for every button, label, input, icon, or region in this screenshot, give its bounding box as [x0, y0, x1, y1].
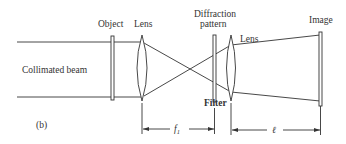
f1-label: f1	[174, 124, 180, 135]
ray-diverge-bottom	[231, 92, 320, 101]
object-label: Object	[98, 19, 124, 29]
panel-label: (b)	[36, 120, 47, 131]
ray-converge-bottom	[144, 45, 231, 96]
lens-1-label: Lens	[134, 19, 153, 29]
image-label: Image	[309, 15, 333, 25]
object-plate	[111, 36, 114, 100]
ell-dimension: ℓ	[232, 125, 320, 135]
filter-plate	[213, 35, 216, 102]
collimated-beam-label: Collimated beam	[22, 65, 88, 75]
image-plate	[319, 32, 322, 106]
ray-converge-top	[144, 43, 231, 92]
f1-dimension: f1	[143, 124, 214, 135]
diverging-rays	[231, 35, 320, 101]
converging-rays	[144, 43, 231, 96]
diffraction-label-line1: Diffraction	[194, 9, 236, 19]
lens-1-icon	[137, 35, 147, 101]
ell-label: ℓ	[272, 125, 276, 135]
filter-label: Filter	[204, 98, 227, 108]
lens-2-label: Lens	[240, 34, 259, 44]
diffraction-label-line2: pattern	[200, 19, 227, 29]
optical-setup-diagram: f1 ℓ Collimated beam Object Lens Diffrac…	[0, 0, 346, 144]
